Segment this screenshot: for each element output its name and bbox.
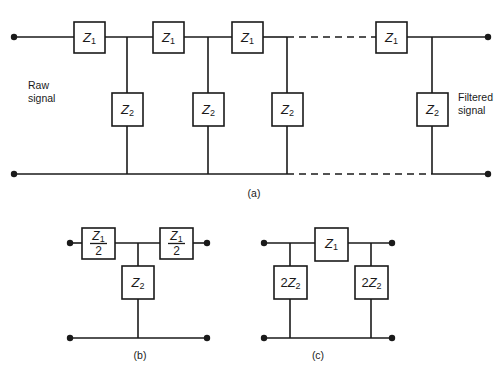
panel-a-input-terminal-bottom[interactable] [11, 171, 17, 177]
figure-root: Z1 Z1 Z1 Z1 Z2 Z2 Z2 Z2 Raw signal [0, 0, 501, 372]
circuit-diagram-svg: Z1 Z1 Z1 Z1 Z2 Z2 Z2 Z2 Raw signal [0, 0, 501, 372]
panel-c: Z1 2Z2 2Z2 (c) [261, 228, 395, 361]
panel-b: Z1 2 Z1 2 Z2 (b) [67, 228, 210, 361]
filtered-signal-label-line1: Filtered [458, 91, 493, 103]
panel-c-ground-terminal-right[interactable] [389, 335, 395, 341]
panel-c-input-terminal[interactable] [261, 240, 267, 246]
panel-a-input-terminal-top[interactable] [11, 34, 17, 40]
panel-b-series-denominator-1: 2 [95, 244, 102, 258]
panel-c-ground-terminal-left[interactable] [261, 335, 267, 341]
caption-a: (a) [248, 187, 261, 199]
panel-c-output-terminal[interactable] [389, 240, 395, 246]
panel-b-ground-terminal-left[interactable] [67, 335, 73, 341]
raw-signal-label-line1: Raw [28, 79, 49, 91]
panel-b-output-terminal[interactable] [204, 240, 210, 246]
panel-b-ground-terminal-right[interactable] [204, 335, 210, 341]
panel-a: Z1 Z1 Z1 Z1 Z2 Z2 Z2 Z2 Raw signal [11, 22, 493, 199]
caption-b: (b) [134, 349, 147, 361]
panel-a-output-terminal-bottom[interactable] [485, 171, 491, 177]
panel-b-input-terminal[interactable] [67, 240, 73, 246]
caption-c: (c) [312, 349, 324, 361]
panel-b-series-denominator-2: 2 [173, 244, 180, 258]
filtered-signal-label-line2: signal [458, 104, 485, 116]
raw-signal-label-line2: signal [28, 92, 55, 104]
panel-a-output-terminal-top[interactable] [485, 34, 491, 40]
